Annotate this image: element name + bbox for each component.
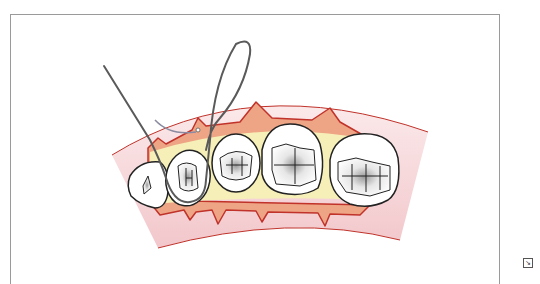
image-expand-icon[interactable]: ↘	[523, 258, 533, 268]
tooth-5	[330, 134, 399, 206]
tooth-4	[262, 124, 323, 194]
tooth-3	[212, 134, 260, 192]
